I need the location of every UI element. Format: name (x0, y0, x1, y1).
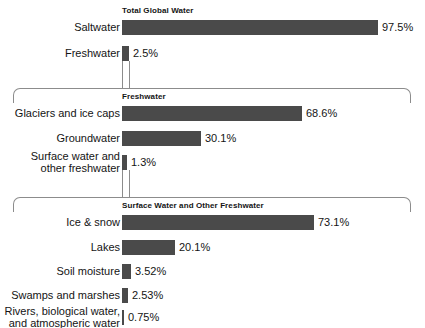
water-distribution-chart: Total Global Water Saltwater 97.5% Fresh… (0, 0, 425, 328)
bar-label-rivers: Rivers, biological water, and atmospheri… (0, 306, 120, 328)
bar-ice-and-snow (122, 215, 314, 230)
bar-surface-water (122, 155, 127, 170)
bar-label-groundwater: Groundwater (0, 133, 120, 145)
bar-value-groundwater: 30.1% (205, 131, 236, 146)
connector-line-freshwater-left (122, 61, 123, 88)
bar-label-freshwater: Freshwater (0, 48, 120, 60)
bar-value-surface-water: 1.3% (131, 155, 156, 170)
bar-freshwater (122, 46, 129, 61)
bar-label-soil-moisture: Soil moisture (0, 266, 120, 278)
connector-line-freshwater-right (129, 61, 130, 88)
bar-value-saltwater: 97.5% (382, 20, 413, 35)
bar-label-lakes: Lakes (0, 242, 120, 254)
bar-soil-moisture (122, 264, 131, 279)
bar-label-surface-water: Surface water and other freshwater (0, 151, 120, 174)
bar-swamps-and-marshes (122, 288, 128, 303)
bar-row-swamps-and-marshes: Swamps and marshes 2.53% (0, 288, 425, 304)
bar-row-ice-and-snow: Ice & snow 73.1% (0, 215, 425, 231)
bar-glaciers (122, 106, 302, 121)
bar-label-swamps-and-marshes: Swamps and marshes (0, 290, 120, 302)
section-title-surface-water: Surface Water and Other Freshwater (122, 201, 264, 210)
bar-value-glaciers: 68.6% (306, 106, 337, 121)
bar-row-glaciers: Glaciers and ice caps 68.6% (0, 106, 425, 122)
bar-row-freshwater: Freshwater 2.5% (0, 46, 425, 62)
bar-value-rivers: 0.75% (128, 310, 159, 325)
bar-value-soil-moisture: 3.52% (135, 264, 166, 279)
bar-rivers (122, 310, 124, 325)
bar-value-swamps-and-marshes: 2.53% (132, 288, 163, 303)
section-title-freshwater: Freshwater (122, 92, 166, 101)
bar-row-lakes: Lakes 20.1% (0, 240, 425, 256)
bar-row-soil-moisture: Soil moisture 3.52% (0, 264, 425, 280)
bar-lakes (122, 240, 175, 255)
section-title-total-global-water: Total Global Water (122, 6, 194, 15)
bracket-freshwater (13, 88, 411, 103)
connector-line-surface-water-right (129, 170, 130, 197)
bar-row-groundwater: Groundwater 30.1% (0, 131, 425, 147)
connector-line-surface-water-left (122, 170, 123, 197)
bar-label-glaciers: Glaciers and ice caps (0, 108, 120, 120)
bar-row-surface-water: Surface water and other freshwater 1.3% (0, 155, 425, 171)
bar-value-lakes: 20.1% (179, 240, 210, 255)
bar-row-saltwater: Saltwater 97.5% (0, 20, 425, 36)
bar-label-ice-and-snow: Ice & snow (0, 217, 120, 229)
bar-value-ice-and-snow: 73.1% (318, 215, 349, 230)
bar-row-rivers: Rivers, biological water, and atmospheri… (0, 310, 425, 326)
bar-groundwater (122, 131, 201, 146)
bar-label-saltwater: Saltwater (0, 22, 120, 34)
bar-value-freshwater: 2.5% (133, 46, 158, 61)
bar-saltwater (122, 20, 378, 35)
